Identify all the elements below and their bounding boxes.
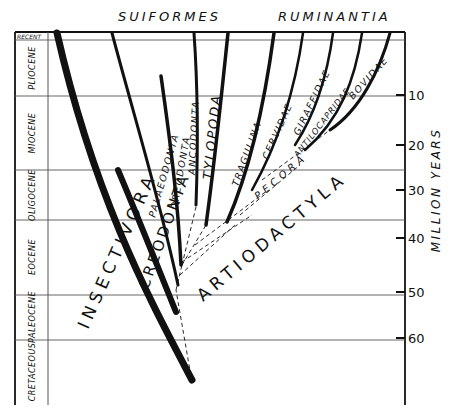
period-paleocene: PALEOCENE: [28, 291, 37, 343]
period-oligocene: OLIGOCENE: [28, 169, 37, 221]
time-axis: 10 20 30 40 50 60 MILLION YEARS: [396, 88, 443, 346]
branches: [57, 33, 390, 380]
axis-title: MILLION YEARS: [429, 128, 443, 253]
suiformes-label: SUIFORMES: [118, 9, 221, 24]
ruminantia-label: RUMINANTIA: [278, 9, 391, 24]
label-pecora: PECORA: [252, 151, 309, 201]
tick-10: 10: [408, 88, 425, 103]
period-eocene: EOCENE: [28, 239, 37, 275]
phylogeny-diagram: SUIFORMES RUMINANTIA RECENT PLIOCENE MIO…: [0, 0, 454, 416]
tick-50: 50: [408, 285, 425, 300]
period-pliocene: PLIOCENE: [28, 46, 37, 90]
label-cervidae: CERVIDAE: [260, 101, 295, 161]
label-ancodonta: ANCODONTA: [186, 100, 201, 176]
period-recent: RECENT: [17, 33, 42, 40]
period-miocene: MIOCENE: [28, 112, 37, 153]
tick-20: 20: [408, 138, 425, 153]
label-tylopoda: TYLOPODA: [200, 93, 224, 180]
tick-40: 40: [408, 231, 425, 246]
period-cretaceous: CRETACEOUS: [28, 343, 37, 402]
tick-30: 30: [408, 183, 425, 198]
tick-60: 60: [408, 331, 425, 346]
period-labels: RECENT PLIOCENE MIOCENE OLIGOCENE EOCENE…: [17, 33, 42, 401]
